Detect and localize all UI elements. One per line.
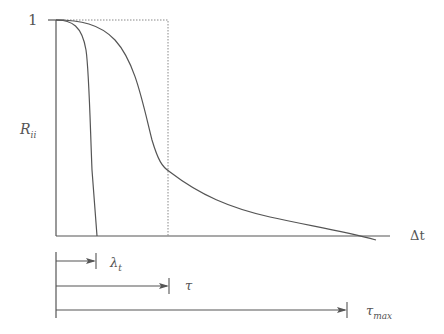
x-axis-label: Δt xyxy=(410,229,425,242)
tau-label: τ xyxy=(185,279,192,292)
slow-decay-curve xyxy=(56,20,376,240)
tau-box xyxy=(64,20,168,236)
lambda-label: λt xyxy=(110,256,122,273)
taumax-label: τmax xyxy=(366,304,392,321)
fast-decay-curve xyxy=(56,20,97,236)
y-max-label: 1 xyxy=(28,13,38,28)
y-axis-label: Rii xyxy=(20,122,36,140)
correlation-diagram xyxy=(0,0,444,334)
